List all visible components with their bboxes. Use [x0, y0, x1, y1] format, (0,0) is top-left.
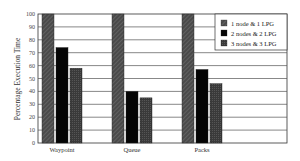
bar-waypoint-series-1: [42, 14, 54, 143]
bar-waypoint-series-3: [70, 68, 82, 143]
x-axis: WaypointQueuePacks: [49, 146, 210, 153]
bar-packs-series-3: [210, 84, 222, 143]
y-tick-label: 70: [29, 50, 35, 56]
bar-queue-series-3: [140, 98, 152, 143]
bar-waypoint-series-2: [56, 48, 68, 143]
y-tick-label: 20: [29, 114, 35, 120]
y-tick-label: 100: [26, 11, 35, 17]
y-tick-label: 10: [29, 127, 35, 133]
legend-swatch: [221, 30, 227, 36]
legend: 1 node & 1 LPG2 nodes & 2 LPG3 nodes & 3…: [215, 14, 287, 50]
bar-packs-series-2: [196, 69, 208, 143]
legend-swatch: [221, 20, 227, 26]
y-tick-label: 80: [29, 37, 35, 43]
y-axis: 0102030405060708090100: [26, 11, 35, 146]
y-tick-label: 90: [29, 24, 35, 30]
x-category-label: Queue: [124, 146, 141, 153]
x-category-label: Waypoint: [49, 146, 74, 153]
legend-entry-label: 1 node & 1 LPG: [231, 20, 274, 27]
y-tick-label: 0: [32, 140, 35, 146]
bar-packs-series-1: [182, 14, 194, 143]
legend-entry-label: 3 nodes & 3 LPG: [231, 40, 277, 47]
y-tick-label: 50: [29, 76, 35, 82]
bar-queue-series-2: [126, 91, 138, 143]
legend-entry-label: 2 nodes & 2 LPG: [231, 30, 277, 37]
y-tick-label: 30: [29, 101, 35, 107]
bar-chart: 0102030405060708090100 WaypointQueuePack…: [0, 0, 300, 161]
y-tick-label: 60: [29, 63, 35, 69]
y-tick-label: 40: [29, 88, 35, 94]
y-axis-label: Percentage Execution Time: [13, 37, 22, 120]
x-category-label: Packs: [194, 146, 210, 153]
legend-swatch: [221, 40, 227, 46]
bar-queue-series-1: [112, 14, 124, 143]
